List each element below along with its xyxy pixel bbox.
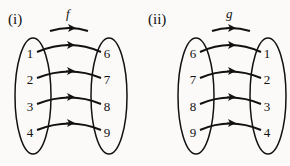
function-name: g — [226, 6, 233, 21]
element: 4 — [264, 125, 271, 140]
element: 9 — [104, 125, 111, 140]
element: 9 — [190, 125, 197, 140]
element: 8 — [104, 99, 111, 114]
element: 3 — [27, 99, 34, 114]
diagram-label: (i) — [8, 11, 22, 28]
function-name: f — [66, 6, 72, 21]
diagram-i: (i) f 1 2 3 4 6 7 8 9 — [8, 6, 127, 154]
element: 1 — [27, 46, 34, 61]
element: 8 — [190, 99, 197, 114]
element: 6 — [104, 46, 111, 61]
element: 7 — [104, 72, 111, 87]
function-diagrams: (i) f 1 2 3 4 6 7 8 9 (ii) g 6 — [0, 0, 290, 166]
element: 2 — [27, 72, 34, 87]
diagram-ii: (ii) g 6 7 8 9 1 2 3 4 — [148, 6, 286, 154]
element: 4 — [27, 125, 34, 140]
element: 6 — [190, 46, 197, 61]
element: 3 — [264, 99, 271, 114]
element: 1 — [264, 46, 271, 61]
element: 2 — [264, 72, 271, 87]
element: 7 — [190, 72, 197, 87]
diagram-label: (ii) — [148, 11, 166, 28]
